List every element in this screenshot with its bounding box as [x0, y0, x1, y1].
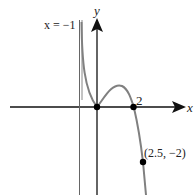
asymptote-label: x = −1	[44, 18, 76, 32]
x-axis-label: x	[186, 100, 193, 115]
y-axis-label: y	[92, 3, 100, 18]
graph: x = −1 y x 2 (2.5, −2)	[0, 0, 196, 195]
point-label: (2.5, −2)	[144, 146, 186, 160]
origin-point	[94, 104, 100, 110]
x-intercept-label: 2	[136, 93, 143, 108]
